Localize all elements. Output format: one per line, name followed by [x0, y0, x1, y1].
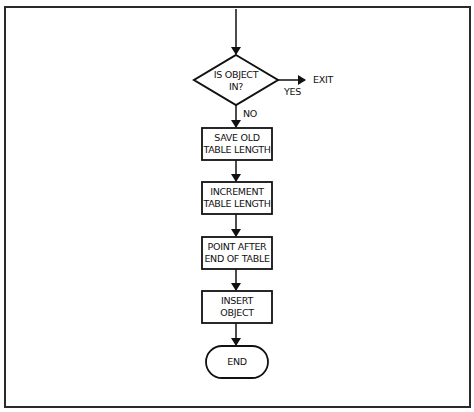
decision-is-object-in: IS OBJECT IN?	[194, 55, 278, 105]
flowchart: IS OBJECT IN? EXIT YES NO SAVE OLD TABLE…	[0, 0, 474, 412]
terminal-end: END	[206, 346, 268, 378]
exit-label: EXIT	[313, 74, 333, 85]
step-increment-table-length: INCREMENT TABLE LENGTH	[202, 182, 272, 214]
step-1-line1: SAVE OLD	[214, 132, 259, 143]
terminal-label: END	[227, 356, 247, 367]
step-insert-object: INSERT OBJECT	[202, 291, 272, 323]
step-3-line2: END OF TABLE	[204, 253, 269, 264]
yes-label: YES	[283, 86, 301, 97]
step-1-line2: TABLE LENGTH	[202, 144, 270, 155]
step-4-line2: OBJECT	[220, 307, 254, 318]
step-2-line1: INCREMENT	[210, 186, 264, 197]
step-2-line2: TABLE LENGTH	[202, 198, 270, 209]
decision-text-line2: IN?	[229, 81, 243, 92]
step-3-line1: POINT AFTER	[208, 241, 268, 252]
step-4-line1: INSERT	[221, 295, 253, 306]
decision-text-line1: IS OBJECT	[214, 69, 259, 80]
step-save-old-table-length: SAVE OLD TABLE LENGTH	[202, 128, 272, 160]
step-point-after-end-of-table: POINT AFTER END OF TABLE	[202, 237, 272, 269]
no-label: NO	[243, 108, 257, 119]
